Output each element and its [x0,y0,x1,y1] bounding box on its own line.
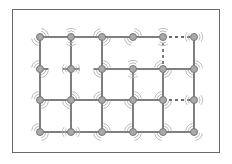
wave-arc [201,32,203,42]
node-r3-c6 [191,97,198,104]
node-r1-c3 [99,34,106,41]
node-r2-c2 [68,66,75,73]
wave-arc [186,32,188,42]
node-r2-c4 [130,66,137,73]
node-r2-c6 [191,66,198,73]
wave-arc [201,95,203,105]
node-r2-c3 [99,66,106,73]
node-r2-c5 [160,66,167,73]
node-r4-c4 [130,129,137,136]
node-r4-c1 [37,129,44,136]
wave-arc [128,61,138,63]
node-r4-c2 [68,129,75,136]
mesh-network-diagram [0,0,232,164]
node-r1-c4 [130,34,137,41]
node-r2-c1 [37,66,44,73]
wave-arc [158,29,168,31]
node-r1-c5 [160,34,167,41]
wave-arc [66,29,76,31]
node-layer [37,34,198,136]
signal-wave-layer [31,28,204,142]
node-r3-c2 [68,97,75,104]
wave-arc [68,31,75,32]
wave-arc [199,34,200,41]
node-r3-c3 [99,97,106,104]
node-r4-c5 [160,129,167,136]
wave-arc [130,63,137,64]
node-r4-c6 [191,129,198,136]
wave-arc [199,97,200,104]
node-r1-c6 [191,34,198,41]
node-r1-c2 [68,34,75,41]
wave-arc [186,95,188,105]
node-r4-c3 [99,129,106,136]
node-r3-c5 [160,97,167,104]
wave-arc [160,42,167,43]
node-r3-c4 [130,97,137,104]
link-layer [40,37,194,132]
node-r3-c1 [37,97,44,104]
node-r1-c1 [37,34,44,41]
wave-arc [160,31,167,32]
